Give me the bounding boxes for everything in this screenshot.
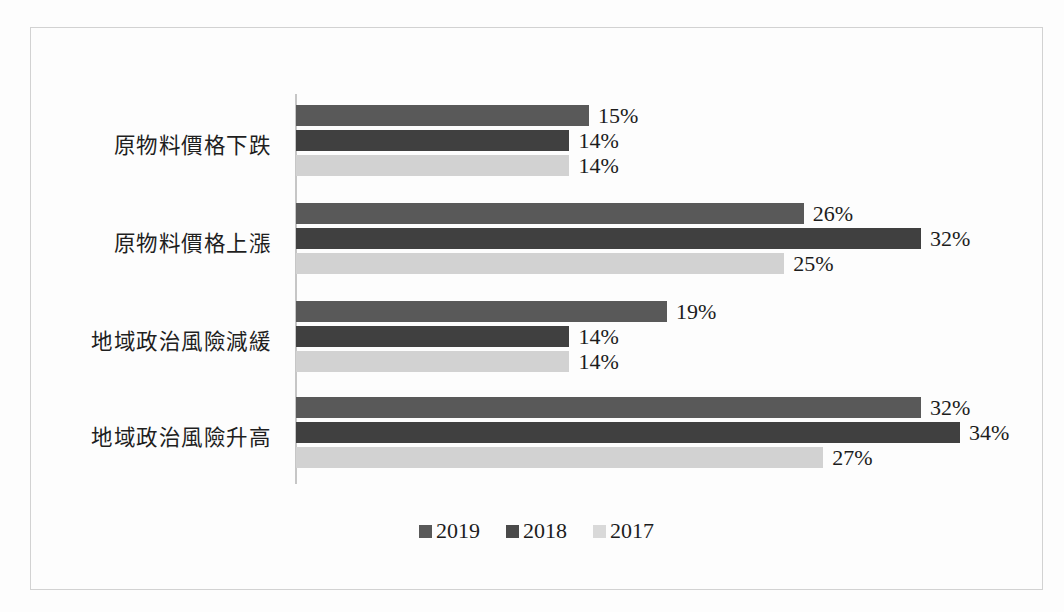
bar-row: 14% — [296, 153, 638, 178]
bar-row: 14% — [296, 349, 716, 374]
bar-value-label: 27% — [832, 447, 872, 469]
bar-row: 14% — [296, 128, 638, 153]
bar-2017[interactable] — [296, 447, 823, 468]
bar-row: 34% — [296, 420, 1009, 445]
bar-2019[interactable] — [296, 301, 667, 322]
bar-2017[interactable] — [296, 155, 569, 176]
bar-cluster: 15% 14% 14% — [296, 103, 638, 178]
category-label: 原物料價格下跌 — [31, 128, 271, 159]
chart-legend: 2019 2018 2017 — [31, 520, 1042, 542]
bar-cluster: 32% 34% 27% — [296, 395, 1009, 470]
legend-swatch-icon — [593, 525, 606, 538]
legend-item-2017[interactable]: 2017 — [593, 520, 654, 542]
category-label: 地域政治風險升高 — [31, 420, 271, 451]
bar-value-label: 32% — [930, 397, 970, 419]
bar-row: 15% — [296, 103, 638, 128]
bar-value-label: 15% — [598, 105, 638, 127]
category-group: 地域政治風險減緩 19% 14% 14% — [31, 290, 1042, 388]
bar-2018[interactable] — [296, 422, 960, 443]
chart-frame: 原物料價格下跌 15% 14% 14% 原物料價格上漲 — [30, 27, 1043, 590]
category-label: 地域政治風險減緩 — [31, 324, 271, 355]
legend-swatch-icon — [506, 525, 519, 538]
bar-2019[interactable] — [296, 105, 589, 126]
bar-value-label: 14% — [578, 155, 618, 177]
bar-cluster: 26% 32% 25% — [296, 201, 970, 276]
legend-item-2018[interactable]: 2018 — [506, 520, 567, 542]
bar-cluster: 19% 14% 14% — [296, 299, 716, 374]
bar-value-label: 19% — [676, 301, 716, 323]
plot-area: 原物料價格下跌 15% 14% 14% 原物料價格上漲 — [31, 28, 1042, 589]
bar-row: 26% — [296, 201, 970, 226]
bar-value-label: 26% — [813, 203, 853, 225]
bar-2017[interactable] — [296, 253, 784, 274]
bar-row: 32% — [296, 395, 1009, 420]
legend-label: 2019 — [436, 520, 480, 542]
legend-swatch-icon — [419, 525, 432, 538]
bar-value-label: 32% — [930, 228, 970, 250]
bar-2018[interactable] — [296, 228, 921, 249]
bar-row: 27% — [296, 445, 1009, 470]
bar-value-label: 14% — [578, 130, 618, 152]
legend-item-2019[interactable]: 2019 — [419, 520, 480, 542]
category-group: 原物料價格上漲 26% 32% 25% — [31, 192, 1042, 290]
bar-row: 32% — [296, 226, 970, 251]
legend-label: 2018 — [523, 520, 567, 542]
bar-2017[interactable] — [296, 351, 569, 372]
bar-2019[interactable] — [296, 397, 921, 418]
legend-label: 2017 — [610, 520, 654, 542]
bar-value-label: 14% — [578, 351, 618, 373]
category-label: 原物料價格上漲 — [31, 226, 271, 257]
bar-row: 19% — [296, 299, 716, 324]
bar-value-label: 14% — [578, 326, 618, 348]
bar-2019[interactable] — [296, 203, 804, 224]
bar-row: 25% — [296, 251, 970, 276]
bar-2018[interactable] — [296, 130, 569, 151]
bar-row: 14% — [296, 324, 716, 349]
category-group: 地域政治風險升高 32% 34% 27% — [31, 386, 1042, 484]
category-group: 原物料價格下跌 15% 14% 14% — [31, 94, 1042, 192]
bar-2018[interactable] — [296, 326, 569, 347]
bar-value-label: 34% — [969, 422, 1009, 444]
bar-value-label: 25% — [793, 253, 833, 275]
